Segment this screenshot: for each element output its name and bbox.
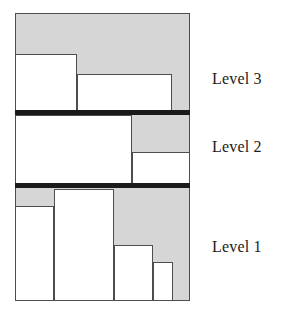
item-l2-1 [15, 115, 132, 184]
level-3-label: Level 3 [212, 70, 262, 88]
item-l1-4 [153, 262, 173, 301]
item-l3-1 [15, 54, 77, 111]
item-l2-2 [132, 152, 190, 184]
item-l1-2 [54, 189, 114, 301]
item-l1-3 [114, 245, 153, 301]
level-2-label: Level 2 [212, 138, 262, 156]
item-l3-2 [77, 74, 172, 111]
level-packing-figure: Level 3 Level 2 Level 1 [0, 0, 288, 324]
level-1-label: Level 1 [212, 238, 262, 256]
item-l1-1 [15, 206, 54, 301]
separator-level2-level1 [15, 183, 190, 188]
